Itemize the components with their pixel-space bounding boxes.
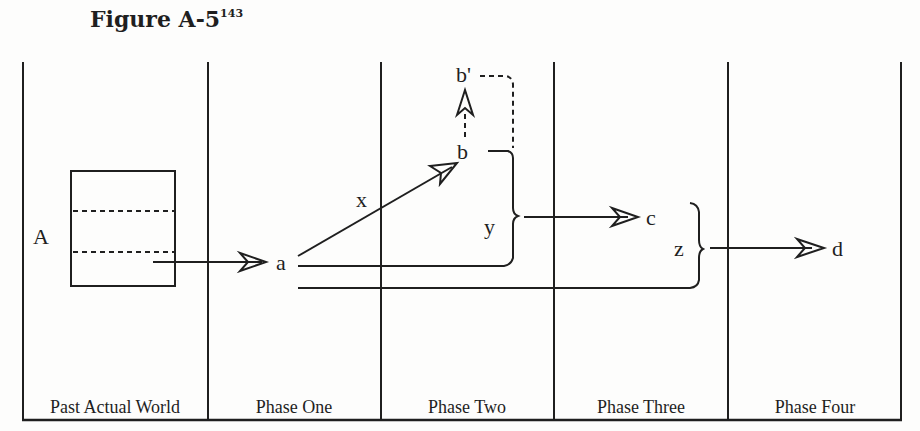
column-label-phase-two: Phase Two bbox=[428, 397, 506, 417]
column-label-phase-three: Phase Three bbox=[597, 397, 685, 417]
column-label-phase-four: Phase Four bbox=[775, 397, 856, 417]
node-a: a bbox=[276, 250, 286, 275]
node-c: c bbox=[646, 205, 656, 230]
brace-z bbox=[298, 203, 703, 288]
node-b: b bbox=[457, 139, 468, 164]
dashed-loop bbox=[480, 76, 513, 148]
node-d: d bbox=[832, 236, 843, 261]
edge-label-y: y bbox=[484, 214, 495, 239]
arrow-x bbox=[298, 167, 452, 256]
phase-diagram: A a b b' c d x y z Past Actual World Pha… bbox=[0, 0, 920, 431]
edge-label-z: z bbox=[674, 236, 684, 261]
brace-y bbox=[298, 151, 518, 266]
edge-label-x: x bbox=[356, 187, 367, 212]
column-label-phase-one: Phase One bbox=[256, 397, 332, 417]
column-label-past-actual-world: Past Actual World bbox=[50, 397, 180, 417]
node-A: A bbox=[33, 224, 49, 249]
world-box bbox=[71, 171, 175, 286]
arrowhead-icon bbox=[457, 90, 473, 115]
arrowhead-icon bbox=[430, 163, 457, 184]
node-b-prime: b' bbox=[456, 62, 471, 87]
